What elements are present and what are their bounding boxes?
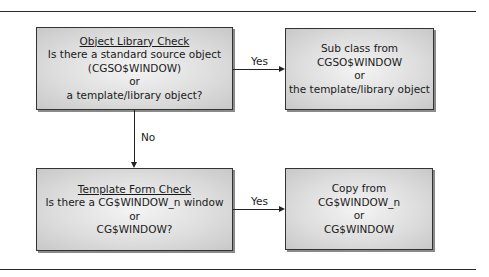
- template-form-check-box: Template Form Check Is there a CG$WINDOW…: [36, 168, 233, 251]
- no-connector: [134, 110, 135, 162]
- box-line: CGSO$WINDOW: [317, 56, 402, 70]
- object-library-check-box: Object Library Check Is there a standard…: [36, 27, 233, 110]
- box-line: Copy from: [332, 182, 386, 196]
- sub-class-box: Sub class from CGSO$WINDOW or the templa…: [285, 28, 434, 110]
- box-line: CG$WINDOW?: [97, 223, 173, 237]
- copy-from-box: Copy from CG$WINDOW_n or CG$WINDOW: [285, 168, 433, 250]
- box-line: Is there a CG$WINDOW_n window: [45, 196, 223, 210]
- box-line: or: [354, 69, 365, 83]
- yes-label-1: Yes: [251, 55, 268, 67]
- box-line: or: [129, 75, 140, 89]
- box-line: or: [129, 210, 140, 224]
- object-library-check-title: Object Library Check: [80, 35, 190, 49]
- yes-connector-2: [233, 209, 279, 210]
- box-line: CG$WINDOW: [324, 223, 394, 237]
- no-label: No: [141, 131, 155, 143]
- yes-connector-1: [233, 69, 279, 70]
- box-line: CG$WINDOW_n: [318, 196, 400, 210]
- arrow-right-icon: [279, 66, 285, 72]
- template-form-check-title: Template Form Check: [78, 183, 191, 197]
- top-rule: [0, 11, 476, 12]
- box-line: a template/library object?: [67, 89, 203, 103]
- yes-label-2: Yes: [251, 195, 268, 207]
- box-line: (CGSO$WINDOW): [88, 62, 181, 76]
- box-line: or: [354, 209, 365, 223]
- box-line: Is there a standard source object: [48, 48, 221, 62]
- arrow-down-icon: [131, 162, 137, 168]
- box-line: the template/library object: [289, 83, 430, 97]
- bottom-rule: [0, 269, 476, 270]
- arrow-right-icon: [279, 206, 285, 212]
- box-line: Sub class from: [321, 42, 398, 56]
